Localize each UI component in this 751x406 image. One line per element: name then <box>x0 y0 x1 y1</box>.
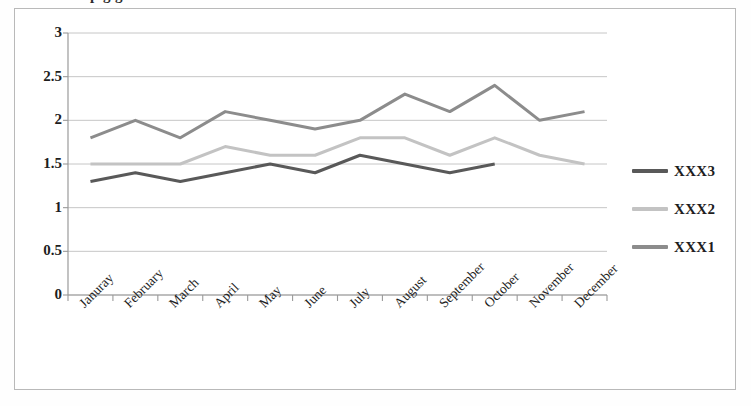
series-line-xxx3 <box>90 155 494 181</box>
y-axis-tick-labels: 32.521.510.50 <box>14 33 62 295</box>
legend-label: XXX3 <box>674 163 715 180</box>
y-tick-label: 2.5 <box>18 69 62 84</box>
legend-item-xxx3[interactable]: XXX3 <box>632 152 744 190</box>
plot-svg <box>68 33 607 295</box>
x-axis-tick-labels: JanurayFebruaryMarchAprilMayJuneJulyAugu… <box>68 300 628 400</box>
chart-legend: XXX3XXX2XXX1 <box>632 152 744 266</box>
chart-title-text: p g g <box>90 0 123 3</box>
legend-label: XXX2 <box>674 201 715 218</box>
y-tick-label: 1 <box>18 200 62 215</box>
series-line-xxx1 <box>90 85 584 137</box>
legend-swatch-icon <box>632 169 668 173</box>
legend-label: XXX1 <box>674 239 715 256</box>
chart-title-clipped: p g g <box>0 0 751 7</box>
legend-swatch-icon <box>632 207 668 211</box>
y-tick-label: 1.5 <box>18 156 62 171</box>
legend-swatch-icon <box>632 245 668 249</box>
y-tick-label: 0.5 <box>18 243 62 258</box>
legend-item-xxx1[interactable]: XXX1 <box>632 228 744 266</box>
series-line-xxx2 <box>90 138 584 164</box>
chart-screenshot: p g g 32.521.510.50 JanurayFebruaryMarch… <box>0 0 751 406</box>
y-tick-label: 3 <box>18 25 62 40</box>
plot-area <box>68 33 607 295</box>
y-tick-label: 2 <box>18 112 62 127</box>
legend-item-xxx2[interactable]: XXX2 <box>632 190 744 228</box>
y-tick-label: 0 <box>18 287 62 302</box>
